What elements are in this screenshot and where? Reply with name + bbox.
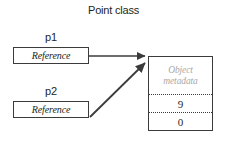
diagram-title: Point class — [0, 4, 227, 16]
reference-box-p1-text: Reference — [32, 50, 71, 61]
point-class-diagram: Point class p1 Reference p2 Reference Ob… — [0, 0, 227, 141]
object-field-0-value: 9 — [178, 98, 184, 110]
object-metadata-line-2: metadata — [163, 76, 198, 87]
object-box: Object metadata 9 0 — [148, 56, 213, 131]
reference-box-p2: Reference — [13, 101, 89, 118]
variable-label-p1: p1 — [13, 31, 89, 43]
object-field-1-value: 0 — [178, 116, 184, 128]
variable-label-p2: p2 — [13, 85, 89, 97]
object-field-1: 0 — [149, 113, 212, 131]
reference-box-p1: Reference — [13, 47, 89, 64]
object-metadata-section: Object metadata — [149, 57, 212, 94]
object-metadata-line-1: Object — [168, 65, 193, 76]
arrow-p2-to-object — [90, 63, 145, 117]
reference-box-p2-text: Reference — [32, 104, 71, 115]
object-field-0: 9 — [149, 95, 212, 113]
